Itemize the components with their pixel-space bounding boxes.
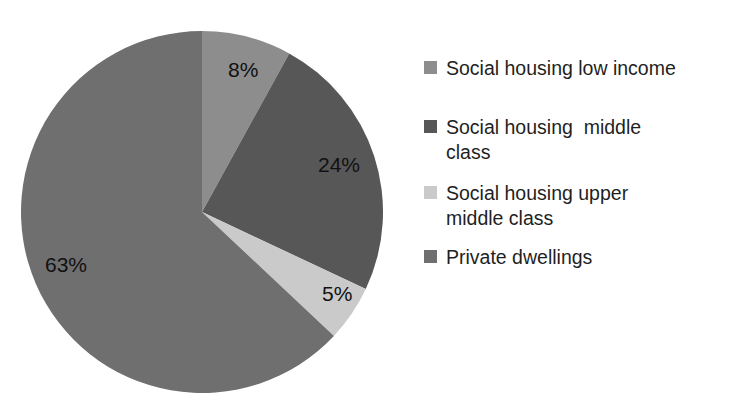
chart-legend: Social housing low income Social housing… xyxy=(424,56,742,270)
legend-item-social-housing-middle-class[interactable]: Social housing middle class xyxy=(424,115,742,165)
legend-label-social-housing-middle-class: Social housing middle class xyxy=(446,115,641,165)
legend-label-social-housing-upper-middle-class: Social housing upper middle class xyxy=(446,181,628,231)
legend-swatch-social-housing-low-income-icon xyxy=(424,61,437,74)
pie-chart-figure: 8%24%5%63% Social housing low income Soc… xyxy=(0,0,742,403)
pie-slice-value-label-1: 24% xyxy=(318,153,360,176)
pie-slice-value-label-2: 5% xyxy=(322,282,352,305)
legend-item-social-housing-low-income[interactable]: Social housing low income xyxy=(424,56,742,81)
legend-item-private-dwellings[interactable]: Private dwellings xyxy=(424,245,742,270)
pie-chart-svg: 8%24%5%63% xyxy=(0,0,420,403)
legend-swatch-social-housing-middle-class-icon xyxy=(424,120,437,133)
legend-item-social-housing-upper-middle-class[interactable]: Social housing upper middle class xyxy=(424,181,742,231)
pie-slice-group xyxy=(21,31,383,393)
legend-label-private-dwellings: Private dwellings xyxy=(446,245,592,270)
legend-swatch-private-dwellings-icon xyxy=(424,250,437,263)
legend-swatch-social-housing-upper-middle-class-icon xyxy=(424,186,437,199)
pie-slice-value-label-0: 8% xyxy=(228,58,258,81)
legend-label-social-housing-low-income: Social housing low income xyxy=(446,56,676,81)
pie-slice-value-label-3: 63% xyxy=(45,253,87,276)
pie-chart-plot-area: 8%24%5%63% xyxy=(0,0,420,403)
